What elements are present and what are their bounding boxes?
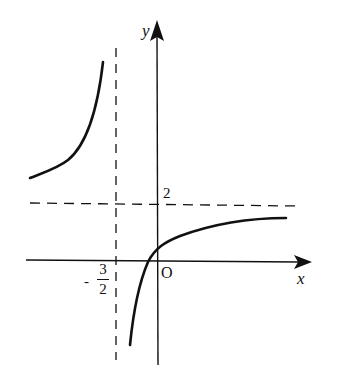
hyperbola-graph: [0, 0, 345, 381]
curve-upper-left-branch: [30, 62, 103, 178]
curve-lower-right-branch: [130, 218, 286, 345]
x-axis-label: x: [297, 270, 305, 287]
fraction-numerator: 3: [97, 262, 109, 277]
fraction-denominator: 2: [97, 282, 109, 297]
horizontal-asymptote: [30, 203, 298, 206]
vertical-asymptote-label-sign: -: [84, 274, 89, 289]
origin-label: O: [161, 265, 173, 281]
y-axis-label: y: [142, 22, 150, 39]
fraction-bar: [97, 279, 109, 280]
y-axis: [150, 20, 164, 365]
horizontal-asymptote-label: 2: [163, 186, 171, 201]
vertical-asymptote-label-fraction: 3 2: [97, 262, 109, 297]
